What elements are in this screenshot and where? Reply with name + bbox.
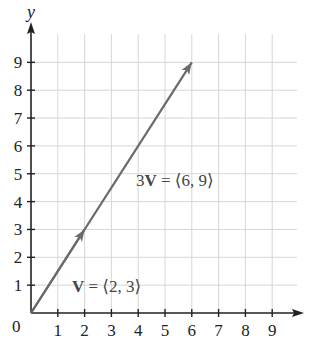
x-tick-label: 5	[161, 321, 170, 340]
y-tick-label: 3	[14, 220, 23, 239]
arrowhead-v-icon	[74, 229, 84, 242]
y-axis-label: y	[25, 2, 35, 22]
tick-marks: 123456789123456789	[14, 53, 277, 340]
x-tick-label: 4	[134, 321, 143, 340]
y-tick-label: 5	[14, 165, 23, 184]
y-tick-label: 6	[14, 137, 23, 156]
y-tick-label: 2	[14, 248, 23, 267]
origin-label: 0	[12, 317, 21, 336]
x-tick-label: 2	[80, 321, 89, 340]
y-tick-label: 7	[14, 109, 23, 128]
y-tick-label: 9	[14, 53, 23, 72]
vector-v-label: V = ⟨2, 3⟩	[72, 277, 141, 296]
x-tick-label: 6	[188, 321, 197, 340]
x-tick-label: 7	[214, 321, 223, 340]
y-tick-label: 1	[14, 276, 23, 295]
x-tick-label: 1	[54, 321, 63, 340]
x-tick-label: 9	[268, 321, 277, 340]
y-tick-label: 4	[14, 193, 23, 212]
y-tick-label: 8	[14, 81, 23, 100]
vector-diagram: 123456789123456789 y 0 3V = ⟨6, 9⟩ V = ⟨…	[0, 0, 310, 354]
x-tick-label: 3	[107, 321, 116, 340]
coordinate-plane: 123456789123456789 y 0 3V = ⟨6, 9⟩ V = ⟨…	[0, 0, 310, 354]
x-tick-label: 8	[241, 321, 250, 340]
vector-3v-label: 3V = ⟨6, 9⟩	[136, 171, 214, 190]
arrowhead-3v-icon	[182, 62, 192, 75]
